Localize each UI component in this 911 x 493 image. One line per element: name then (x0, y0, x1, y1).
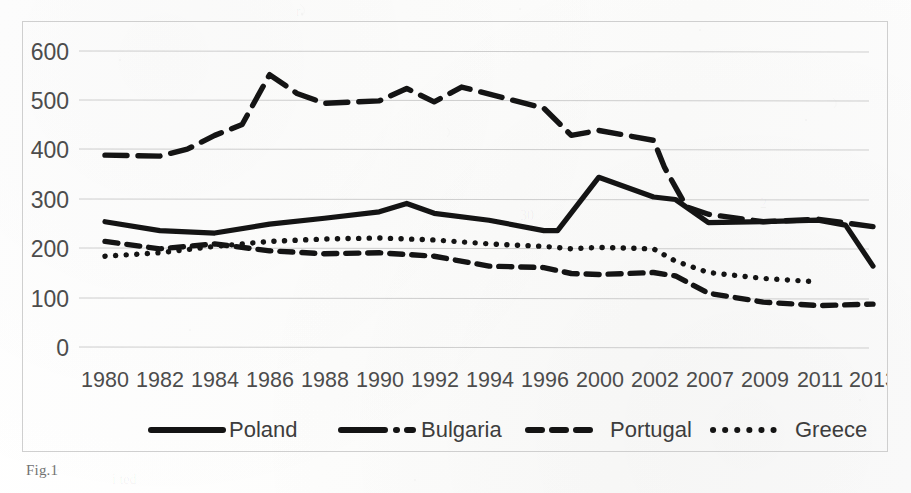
series-line-bulgaria (105, 75, 873, 227)
y-tick-label: 100 (31, 286, 69, 312)
legend-item-greece[interactable]: Greece (713, 417, 867, 442)
gridline-600 (79, 51, 869, 52)
x-tick-label: 1994 (466, 368, 514, 392)
x-tick-label: 1982 (136, 368, 184, 392)
chart-container: 600 500 400 300 200 100 0 1980 1982 1984… (22, 21, 888, 452)
y-tick-label: 200 (31, 236, 69, 262)
gridlines (79, 51, 869, 348)
y-axis-ticks: 600 500 400 300 200 100 0 (31, 39, 69, 361)
line-chart: 600 500 400 300 200 100 0 1980 1982 1984… (23, 22, 887, 451)
bleed-through-ghost: i ted (112, 472, 137, 488)
figure-caption-fragment: Fig.1 (26, 462, 58, 479)
x-tick-label: 1990 (356, 368, 404, 392)
legend-item-portugal[interactable]: Portugal (528, 417, 692, 442)
gridline-0 (79, 347, 869, 348)
x-tick-label: 2000 (576, 368, 624, 392)
scanned-page: r 30 2 i ted 600 500 400 300 200 100 (0, 0, 911, 493)
legend-item-bulgaria[interactable]: Bulgaria (341, 417, 502, 442)
gridline-300 (79, 199, 869, 200)
gridline-400 (79, 149, 869, 150)
gridline-500 (79, 100, 869, 101)
series-layer (105, 75, 873, 306)
series-line-poland (105, 177, 873, 266)
legend-label-portugal: Portugal (610, 417, 692, 442)
y-tick-label: 0 (56, 335, 69, 361)
x-axis-ticks: 1980 1982 1984 1986 1988 1990 1992 1994 … (81, 368, 887, 392)
bleed-through-ghost: r (296, 4, 301, 20)
legend-label-poland: Poland (229, 417, 298, 442)
x-tick-label: 2013 (849, 368, 887, 392)
y-tick-label: 500 (31, 88, 69, 114)
y-tick-label: 300 (31, 187, 69, 213)
x-tick-label: 1992 (411, 368, 459, 392)
x-tick-label: 2011 (797, 368, 843, 392)
legend-item-poland[interactable]: Poland (151, 417, 298, 442)
x-tick-label: 1996 (521, 368, 569, 392)
x-tick-label: 1984 (191, 368, 239, 392)
y-tick-label: 400 (31, 137, 69, 163)
x-tick-label: 1986 (246, 368, 294, 392)
legend-label-greece: Greece (795, 417, 867, 442)
x-tick-label: 2009 (741, 368, 789, 392)
x-tick-label: 2007 (686, 368, 734, 392)
x-tick-label: 1988 (301, 368, 349, 392)
x-tick-label: 2002 (631, 368, 679, 392)
series-line-portugal (105, 241, 873, 305)
chart-legend: Poland Bulgaria Portugal Greece (151, 417, 867, 442)
y-tick-label: 600 (31, 39, 69, 65)
x-tick-label: 1980 (81, 368, 129, 392)
legend-label-bulgaria: Bulgaria (421, 417, 502, 442)
